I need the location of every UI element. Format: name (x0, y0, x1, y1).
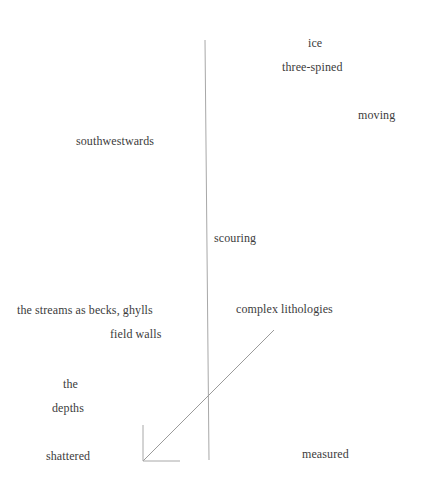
word-the: the (63, 377, 78, 392)
word-depths: depths (52, 401, 84, 416)
word-southwestwards: southwestwards (76, 134, 154, 149)
word-measured: measured (302, 447, 349, 462)
word-moving: moving (358, 108, 395, 123)
word-scouring: scouring (214, 231, 256, 246)
word-field-walls: field walls (110, 327, 161, 342)
word-ice: ice (308, 36, 322, 51)
word-shattered: shattered (46, 449, 90, 464)
word-complex-lithologies: complex lithologies (236, 302, 333, 317)
word-three-spined: three-spined (282, 60, 343, 75)
word-streams: the streams as becks, ghylls (17, 303, 153, 318)
